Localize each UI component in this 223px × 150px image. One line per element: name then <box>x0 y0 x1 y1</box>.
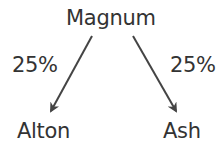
edge-label-left: 25% <box>12 55 58 76</box>
node-root: Magnum <box>66 8 156 29</box>
node-child-alton: Alton <box>17 121 70 142</box>
node-child-ash: Ash <box>163 121 201 142</box>
edge-label-right: 25% <box>170 55 216 76</box>
